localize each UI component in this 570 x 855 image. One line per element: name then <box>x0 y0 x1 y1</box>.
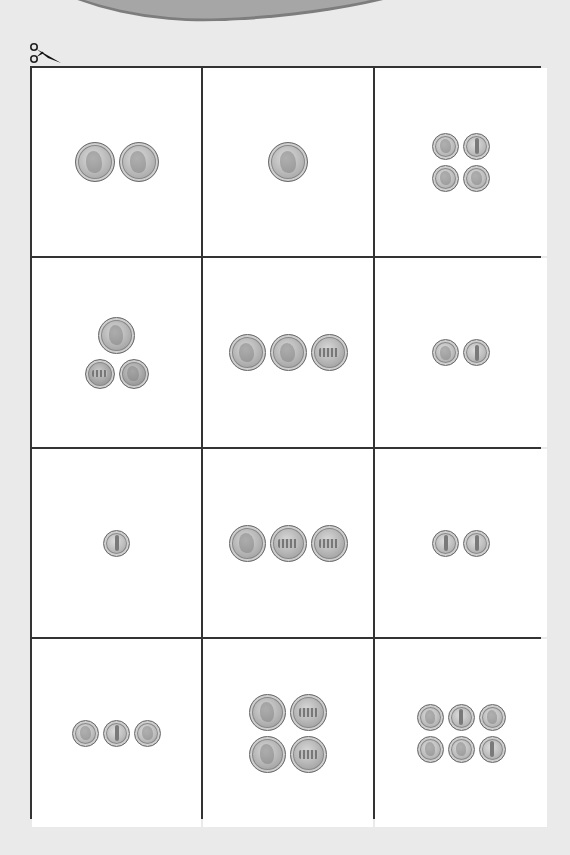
penny-tails-icon <box>85 359 115 389</box>
quarter-heads-icon <box>119 142 159 182</box>
dime-heads-icon <box>417 704 444 731</box>
coin-card-r2c3 <box>375 258 547 447</box>
coin-row <box>268 142 308 182</box>
coin-card-r1c3 <box>375 68 547 256</box>
coin-row <box>75 142 159 182</box>
coin-row <box>417 704 506 731</box>
dime-heads-icon <box>479 704 506 731</box>
dime-tails-icon <box>479 736 506 763</box>
nickel-heads-icon <box>229 334 266 371</box>
coin-card-r1c2 <box>203 68 373 256</box>
coin-row <box>249 694 327 731</box>
coin-group <box>432 339 490 366</box>
coin-group <box>229 334 348 371</box>
nickel-heads-icon <box>98 317 135 354</box>
dime-tails-icon <box>463 133 490 160</box>
quarter-heads-icon <box>75 142 115 182</box>
coin-card-r2c1 <box>32 258 201 447</box>
coin-group <box>432 530 490 557</box>
dime-heads-icon <box>432 133 459 160</box>
coin-card-r4c2 <box>203 639 373 827</box>
dime-tails-icon <box>103 530 130 557</box>
coin-group <box>72 720 161 747</box>
coin-row <box>432 165 490 192</box>
coin-row <box>432 530 490 557</box>
coin-group <box>103 530 130 557</box>
coin-card-r3c1 <box>32 449 201 637</box>
coin-group <box>249 694 327 773</box>
coin-card-r2c2 <box>203 258 373 447</box>
coin-card-r4c1 <box>32 639 201 827</box>
scissors-icon <box>28 41 62 65</box>
dime-heads-icon <box>432 339 459 366</box>
coin-row <box>432 339 490 366</box>
dime-tails-icon <box>448 704 475 731</box>
nickel-tails-icon <box>290 694 327 731</box>
coin-group <box>417 704 506 763</box>
coin-group <box>75 142 159 182</box>
nickel-heads-icon <box>229 525 266 562</box>
coin-card-grid <box>30 66 541 819</box>
nickel-heads-icon <box>249 736 286 773</box>
coin-card-r3c2 <box>203 449 373 637</box>
nickel-tails-icon <box>311 334 348 371</box>
coin-card-r3c3 <box>375 449 547 637</box>
coin-row <box>432 133 490 160</box>
dime-heads-icon <box>134 720 161 747</box>
nickel-heads-icon <box>270 334 307 371</box>
dime-heads-icon <box>448 736 475 763</box>
dime-heads-icon <box>417 736 444 763</box>
coin-row <box>85 359 149 389</box>
dime-tails-icon <box>463 530 490 557</box>
coin-group <box>432 133 490 192</box>
nickel-heads-icon <box>249 694 286 731</box>
coin-card-r1c1 <box>32 68 201 256</box>
coin-row <box>249 736 327 773</box>
dime-heads-icon <box>463 165 490 192</box>
nickel-tails-icon <box>311 525 348 562</box>
coin-card-r4c3 <box>375 639 547 827</box>
coin-row <box>229 525 348 562</box>
coin-row <box>72 720 161 747</box>
penny-heads-icon <box>119 359 149 389</box>
dime-heads-icon <box>432 165 459 192</box>
coin-row <box>98 317 135 354</box>
dime-heads-icon <box>72 720 99 747</box>
quarter-heads-icon <box>268 142 308 182</box>
coin-group <box>268 142 308 182</box>
coin-row <box>103 530 130 557</box>
nickel-tails-icon <box>270 525 307 562</box>
nickel-tails-icon <box>290 736 327 773</box>
coin-group <box>229 525 348 562</box>
header-banner <box>0 0 570 30</box>
coin-row <box>417 736 506 763</box>
coin-group <box>85 317 149 389</box>
dime-tails-icon <box>432 530 459 557</box>
coin-row <box>229 334 348 371</box>
dime-tails-icon <box>463 339 490 366</box>
dime-tails-icon <box>103 720 130 747</box>
